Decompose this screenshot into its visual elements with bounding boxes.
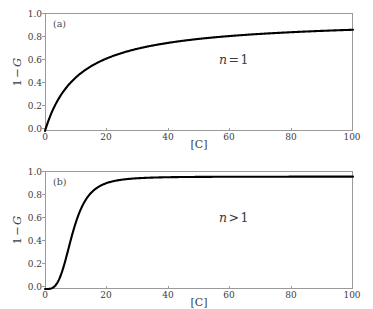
panel-a: 1.0 0.8 0.6 0.4 0.2 0.0 1−G 0 20 40 60 8… — [0, 0, 373, 155]
panel-b: 1.0 0.8 0.6 0.4 0.2 0.0 1−G 0 20 40 60 8… — [0, 158, 373, 307]
curve-a — [0, 0, 373, 155]
curve-b — [0, 158, 373, 307]
